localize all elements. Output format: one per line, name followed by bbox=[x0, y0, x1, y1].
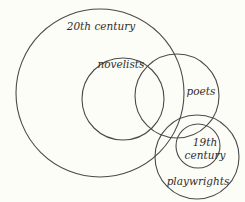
label-19th-line2: century bbox=[185, 149, 227, 161]
label-19th-line1: 19th bbox=[193, 136, 217, 148]
venn-diagram: 20th century novelists poets playwrights… bbox=[0, 0, 245, 202]
label-playwrights: playwrights bbox=[167, 175, 230, 187]
label-20th-century: 20th century bbox=[66, 20, 137, 32]
circle-20th-century bbox=[16, 9, 184, 177]
label-poets: poets bbox=[187, 85, 216, 97]
circle-novelists bbox=[82, 58, 164, 140]
label-novelists: novelists bbox=[98, 58, 146, 70]
